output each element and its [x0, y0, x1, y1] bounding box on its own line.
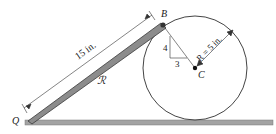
diagram-canvas: 15 in. ℛ 4 3 R = 5 in. B C Q — [0, 0, 276, 134]
point-c-label: C — [198, 69, 205, 80]
point-q-label: Q — [12, 115, 20, 126]
dimension-15in — [22, 11, 155, 113]
pin-b-icon — [160, 22, 165, 27]
slope-triangle — [165, 28, 195, 68]
slope-run-label: 3 — [175, 59, 180, 69]
point-b-label: B — [161, 8, 167, 19]
bar-length-label: 15 in. — [73, 39, 98, 61]
slope-rise-label: 4 — [163, 43, 168, 53]
region-label: ℛ — [97, 74, 107, 86]
radius-label: R = 5 in. — [194, 34, 223, 63]
ground-surface — [25, 120, 273, 125]
